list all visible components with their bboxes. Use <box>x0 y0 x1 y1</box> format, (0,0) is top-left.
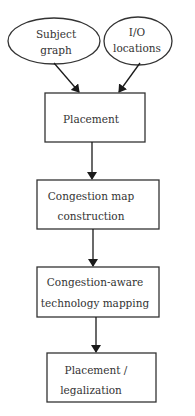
node-label: locations <box>113 42 161 54</box>
edge-arrow <box>119 63 140 92</box>
node-label: Congestion map <box>48 190 135 202</box>
edge-arrow <box>54 63 79 92</box>
node-label: construction <box>58 210 125 222</box>
node-label: Placement <box>63 113 120 125</box>
node-congestion-map: Congestion map construction <box>37 180 159 229</box>
flowchart: Subject graph I/O locations Placement Co… <box>0 0 195 416</box>
node-io-locations: I/O locations <box>104 17 172 65</box>
node-label: I/O <box>129 26 146 38</box>
node-tech-mapping: Congestion-aware technology mapping <box>37 267 159 317</box>
node-placement: Placement <box>45 93 145 142</box>
node-label: legalization <box>60 384 122 396</box>
node-label: graph <box>40 44 72 56</box>
node-label: Congestion-aware <box>47 276 143 288</box>
node-legalization: Placement / legalization <box>47 353 156 402</box>
node-subject-graph: Subject graph <box>8 18 100 64</box>
node-label: technology mapping <box>41 297 150 309</box>
node-label: Subject <box>36 28 77 40</box>
node-label: Placement / <box>65 364 128 376</box>
